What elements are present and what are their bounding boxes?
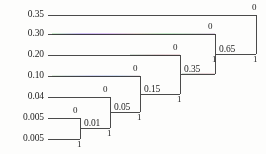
bit-label-bottom-0.35: 1 (177, 95, 181, 104)
leaf-probability-0: 0.35 (2, 10, 44, 20)
branch-line-leaf-6 (48, 139, 80, 140)
bit-label-top-root: 0 (252, 3, 256, 12)
merge-label-0.65: 0.65 (219, 45, 235, 55)
branch-line-leaf-1 (48, 34, 215, 35)
leaf-probability-4: 0.04 (2, 92, 44, 102)
merge-label-0.35: 0.35 (184, 65, 200, 75)
bit-label-bottom-0.65: 1 (212, 55, 216, 64)
bit-label-bottom-root: 1 (253, 55, 257, 64)
merge-connector-root (256, 15, 257, 54)
leaf-probability-2: 0.20 (2, 50, 44, 60)
branch-line-leaf-2 (48, 55, 180, 56)
merge-label-0.05: 0.05 (114, 103, 130, 113)
branch-line-leaf-3 (48, 76, 140, 77)
leaf-probability-5: 0.005 (2, 113, 44, 123)
branch-line-leaf-4 (48, 97, 110, 98)
bit-label-top-0.05: 0 (103, 85, 107, 94)
bit-label-top-0.35: 0 (173, 43, 177, 52)
leaf-probability-3: 0.10 (2, 71, 44, 81)
bit-label-top-0.15: 0 (133, 64, 137, 73)
bit-label-top-0.01: 0 (73, 106, 77, 115)
bit-label-bottom-0.15: 1 (137, 113, 141, 122)
bit-label-bottom-0.01: 1 (77, 140, 81, 149)
merge-label-0.01: 0.01 (84, 119, 100, 129)
leaf-probability-1: 0.30 (2, 29, 44, 39)
bit-label-bottom-0.05: 1 (107, 129, 111, 138)
leaf-probability-6: 0.005 (2, 134, 44, 144)
bit-label-top-0.65: 0 (208, 22, 212, 31)
huffman-tree-diagram: 0.35 0.30 0.20 0.10 0.04 0.005 0.005 0 1… (0, 0, 266, 154)
branch-line-leaf-0 (48, 15, 256, 16)
merge-label-0.15: 0.15 (144, 85, 160, 95)
branch-line-leaf-5 (48, 118, 80, 119)
